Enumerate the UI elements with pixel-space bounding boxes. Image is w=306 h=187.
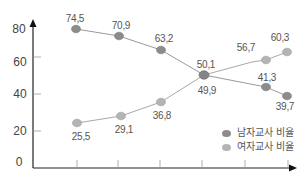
y-axis: 0 20 40 60 80 [12,19,41,169]
data-label: 25,5 [72,131,91,142]
data-label: 41,3 [258,72,277,83]
x-axis [33,160,297,172]
data-label: 63,2 [155,33,174,44]
data-label: 39,7 [276,101,295,112]
data-point [115,32,124,40]
data-point [283,48,292,56]
legend-dot-icon [222,144,231,151]
y-axis-arrow-icon [30,19,37,27]
y-tick-label: 40 [13,87,27,101]
data-label: 29,1 [115,124,134,135]
data-point [262,83,271,91]
data-point [157,98,166,106]
legend-item-female: 여자교사 비율 [222,140,294,154]
data-label: 70,9 [112,20,131,31]
data-point [283,92,292,100]
series-male: 74,5 70,9 63,2 50,1 41,3 39,7 [66,13,295,112]
data-point [72,25,81,33]
legend: 남자교사 비율 여자교사 비율 [222,126,294,154]
legend-item-male: 남자교사 비율 [222,126,294,140]
data-point [73,119,82,127]
y-tick-label: 20 [13,124,27,138]
crossover-point [199,71,209,79]
data-label: 74,5 [66,13,85,24]
x-axis-arrow-icon [289,165,297,172]
legend-label: 여자교사 비율 [237,140,294,154]
data-point [262,56,271,64]
data-label: 60,3 [271,32,290,43]
data-label: 36,8 [153,110,172,121]
data-label: 49,9 [198,85,217,96]
legend-dot-icon [222,130,231,137]
data-label: 50,1 [197,59,216,70]
y-tick-label: 0 [16,155,23,169]
data-point [117,112,126,120]
y-tick-label: 80 [12,22,26,36]
y-tick-label: 60 [13,55,27,69]
line-chart: 0 20 40 60 80 74,5 70,9 63,2 50,1 41,3 3… [0,0,306,187]
data-label: 56,7 [237,42,256,53]
legend-label: 남자교사 비율 [237,126,294,140]
data-point [157,46,166,54]
